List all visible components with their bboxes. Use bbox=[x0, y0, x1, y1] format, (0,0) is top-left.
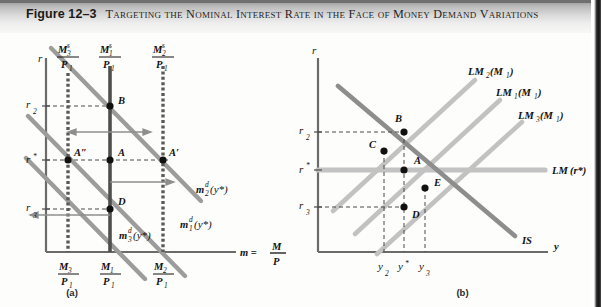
panel-b-guides bbox=[318, 132, 425, 252]
svg-text:): ) bbox=[537, 87, 542, 99]
svg-text:): ) bbox=[559, 110, 564, 122]
figure-title: Targeting the Nominal Interest Rate in t… bbox=[106, 7, 539, 22]
curve-label-LM-rstar: LM (r*) bbox=[551, 165, 586, 177]
svg-text:LM: LM bbox=[495, 87, 512, 98]
curve-label-md1: m 1 d (y*) bbox=[180, 215, 212, 233]
point-A bbox=[106, 156, 113, 163]
label-point-C: C bbox=[369, 139, 377, 150]
svg-text:2: 2 bbox=[205, 189, 209, 198]
point-B bbox=[106, 102, 113, 109]
point-C bbox=[380, 147, 387, 154]
label-point-A: A bbox=[413, 155, 421, 166]
svg-text:P: P bbox=[61, 276, 68, 287]
svg-text:m =: m = bbox=[240, 247, 257, 258]
curve-label-md2: m 2 d (y*) bbox=[196, 180, 228, 198]
svg-text:P: P bbox=[61, 59, 68, 70]
panel-b: r y r 2 r * r 3 y 2 y * y 3 LM bbox=[290, 38, 595, 300]
ytick-r2-sub: 2 bbox=[306, 133, 310, 142]
svg-text:3: 3 bbox=[127, 235, 132, 244]
panel-b-axes bbox=[318, 58, 548, 252]
ytick-r2-base: r bbox=[299, 124, 304, 136]
ytick-r3-sub: 3 bbox=[305, 208, 310, 217]
svg-text:LM: LM bbox=[517, 110, 534, 121]
svg-text:P: P bbox=[103, 59, 110, 70]
xtick-M1: M 1 P 1 bbox=[100, 261, 121, 290]
ytick-r2-base: r bbox=[26, 98, 31, 110]
panel-a-x-axis-label: m = M P bbox=[240, 241, 286, 267]
label-point-E: E bbox=[433, 177, 441, 188]
xtick-ystar-sup: * bbox=[405, 259, 409, 268]
svg-text:(M: (M bbox=[540, 110, 553, 122]
point-D bbox=[106, 205, 113, 212]
figure-number: Figure 12–3 bbox=[26, 7, 97, 21]
svg-text:(y*): (y*) bbox=[210, 183, 228, 196]
panel-b-caption: (b) bbox=[310, 287, 601, 298]
point-A bbox=[400, 166, 407, 173]
xtick-y2-sub: 2 bbox=[385, 269, 389, 278]
svg-text:1: 1 bbox=[69, 64, 73, 73]
header-top-rule bbox=[0, 0, 601, 3]
figure-header: Figure 12–3 Targeting the Nominal Intere… bbox=[26, 7, 539, 27]
svg-text:d: d bbox=[205, 180, 209, 189]
curve-label-IS: IS bbox=[521, 235, 532, 246]
svg-text:d: d bbox=[128, 226, 132, 235]
xtick-y3-sub: 3 bbox=[425, 269, 430, 278]
label-point-B: B bbox=[394, 113, 402, 124]
svg-text:): ) bbox=[509, 66, 514, 78]
svg-text:m: m bbox=[180, 219, 188, 230]
ytick-rstar-sup: * bbox=[33, 152, 37, 161]
ytick-r2-sub: 2 bbox=[33, 107, 37, 116]
label-point-A-dprime: A″ bbox=[73, 147, 87, 158]
page-edge-shadow bbox=[594, 0, 601, 307]
xtick-M3: M 3 P 1 bbox=[58, 261, 79, 290]
svg-text:LM: LM bbox=[551, 165, 568, 176]
panel-a-caption: (a) bbox=[0, 287, 222, 298]
svg-text:m: m bbox=[119, 230, 127, 241]
svg-text:s: s bbox=[109, 41, 112, 50]
xtick-ystar-base: y bbox=[397, 260, 403, 272]
curve-md2 bbox=[51, 48, 201, 201]
svg-text:d: d bbox=[189, 215, 193, 224]
svg-text:(y*): (y*) bbox=[133, 229, 151, 242]
point-B bbox=[400, 128, 407, 135]
svg-text:P: P bbox=[273, 256, 280, 267]
ytick-rstar-base: r bbox=[26, 153, 31, 165]
panel-a-money-supply-lines bbox=[68, 66, 163, 252]
point-A-prime bbox=[159, 156, 166, 163]
svg-text:M: M bbox=[271, 241, 282, 252]
svg-text:P: P bbox=[156, 59, 163, 70]
svg-text:LM: LM bbox=[467, 66, 484, 77]
panel-a-demand-curves bbox=[26, 48, 201, 279]
panel-b-x-tick-labels: y 2 y * y 3 bbox=[377, 259, 430, 278]
svg-text:s: s bbox=[67, 41, 70, 50]
svg-text:(M: (M bbox=[490, 66, 503, 78]
ytick-rstar-sup: * bbox=[306, 161, 310, 170]
panel-a-plot: r r 2 r * r 3 M 3 s P 1 M 1 bbox=[0, 38, 300, 300]
label-point-A: A bbox=[117, 147, 125, 158]
xtick-M2: M 2 P 1 bbox=[153, 261, 174, 290]
panel-b-y-axis-label: r bbox=[312, 44, 317, 56]
ytick-r3-sub: 3 bbox=[32, 211, 37, 220]
xtick-y2-base: y bbox=[377, 260, 383, 272]
ytick-r3-base: r bbox=[299, 199, 304, 211]
label-point-B: B bbox=[117, 95, 125, 106]
panel-b-y-tick-labels: r 2 r * r 3 bbox=[299, 124, 310, 217]
panel-b-x-axis-label: y bbox=[552, 241, 559, 252]
svg-text:s: s bbox=[162, 41, 165, 50]
svg-text:(y*): (y*) bbox=[194, 218, 212, 231]
label-point-D: D bbox=[411, 209, 420, 220]
svg-text:1: 1 bbox=[111, 64, 115, 73]
panel-a-y-axis-label: r bbox=[38, 52, 43, 64]
point-D bbox=[400, 203, 407, 210]
svg-text:1: 1 bbox=[189, 224, 193, 233]
svg-text:P: P bbox=[103, 276, 110, 287]
label-point-A-prime: A′ bbox=[168, 147, 179, 158]
svg-text:(r*): (r*) bbox=[570, 165, 586, 177]
svg-text:P: P bbox=[156, 276, 163, 287]
ytick-rstar-base: r bbox=[299, 163, 304, 175]
curve-LM3 bbox=[377, 122, 522, 254]
ytick-r3-base: r bbox=[26, 201, 31, 213]
curve-label-LM2: LM 2 (M 1 ) bbox=[467, 66, 514, 80]
curve-label-md3: m 3 d (y*) bbox=[119, 226, 151, 244]
figure-root: Figure 12–3 Targeting the Nominal Intere… bbox=[0, 0, 601, 307]
